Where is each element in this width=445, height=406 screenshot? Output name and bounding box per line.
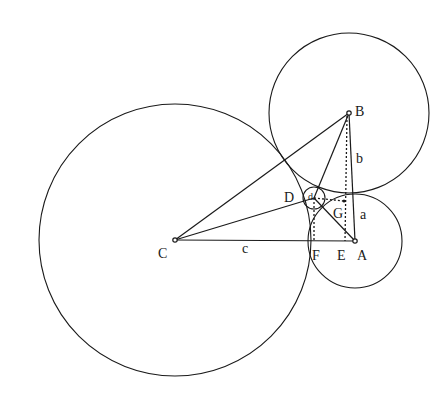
- geometry-diagram: ABCDEFGabcd: [0, 0, 445, 406]
- side-label-a: a: [360, 207, 367, 222]
- side-label-b: b: [356, 151, 363, 166]
- point-label-C: C: [158, 246, 167, 261]
- labels-group: ABCDEFGabcd: [158, 104, 368, 263]
- point-label-D: D: [284, 190, 294, 205]
- dotted-segment-DG: [314, 198, 344, 201]
- points-group: [173, 111, 357, 243]
- solid-segments-group: [175, 113, 355, 241]
- point-A-marker: [353, 239, 357, 243]
- point-label-G: G: [333, 206, 343, 221]
- point-label-E: E: [337, 248, 346, 263]
- segment-BA: [349, 113, 355, 241]
- circles-group: [39, 33, 429, 376]
- side-label-d: d: [308, 191, 313, 202]
- point-G-marker: [343, 200, 346, 203]
- dotted-segment-BE: [345, 116, 347, 241]
- side-label-c: c: [242, 241, 248, 256]
- point-C-marker: [173, 238, 177, 242]
- point-label-A: A: [357, 248, 368, 263]
- point-label-B: B: [355, 104, 364, 119]
- segment-CA: [175, 240, 355, 241]
- point-B-marker: [347, 111, 351, 115]
- point-label-F: F: [312, 248, 320, 263]
